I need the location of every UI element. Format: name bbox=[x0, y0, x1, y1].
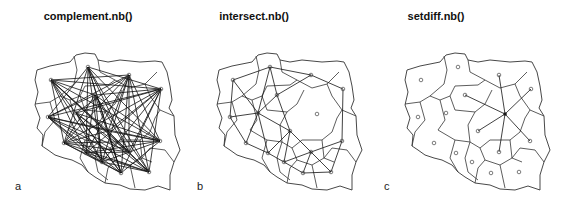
neighbour-link bbox=[478, 114, 505, 131]
neighbour-link bbox=[465, 95, 505, 114]
neighbour-link bbox=[246, 113, 258, 143]
neighbour-link bbox=[230, 80, 233, 117]
maps-canvas bbox=[0, 0, 574, 211]
region-border bbox=[322, 140, 356, 162]
neighbour-link bbox=[342, 89, 343, 141]
neighbour-link bbox=[331, 141, 342, 172]
neighbour-link bbox=[258, 113, 268, 153]
region-node bbox=[419, 78, 423, 82]
panel-a-title: complement.nb() bbox=[44, 10, 133, 22]
map-panel-b bbox=[217, 53, 362, 190]
map-panel-a bbox=[35, 53, 180, 190]
region-border bbox=[500, 165, 505, 188]
region-border bbox=[217, 56, 259, 104]
neighbour-link bbox=[230, 117, 246, 143]
panel-b-title: intersect.nb() bbox=[219, 10, 289, 22]
region-border bbox=[480, 148, 522, 165]
region-node bbox=[444, 111, 448, 115]
region-node bbox=[456, 65, 460, 69]
region-node bbox=[503, 112, 506, 115]
neighbour-link bbox=[311, 152, 331, 172]
neighbour-link bbox=[129, 75, 160, 141]
region-border bbox=[405, 56, 447, 104]
neighbour-link bbox=[268, 153, 284, 162]
region-border bbox=[475, 160, 485, 183]
region-node bbox=[432, 141, 436, 145]
region-border bbox=[412, 102, 425, 146]
region-border bbox=[430, 96, 450, 100]
region-node bbox=[416, 115, 420, 119]
map-panel-c bbox=[405, 53, 550, 190]
neighbour-link bbox=[311, 141, 342, 152]
region-node bbox=[489, 171, 493, 175]
region-border bbox=[312, 165, 317, 188]
neighbour-link bbox=[230, 113, 258, 117]
region-node bbox=[517, 170, 521, 174]
region-border bbox=[510, 140, 544, 162]
neighbour-link bbox=[258, 67, 270, 113]
neighbour-link bbox=[499, 114, 505, 152]
panel-c-label: c bbox=[384, 180, 390, 192]
region-border bbox=[450, 80, 492, 112]
neighbour-link bbox=[499, 75, 505, 114]
region-node bbox=[315, 112, 319, 116]
region-border bbox=[277, 142, 290, 180]
region-border bbox=[287, 160, 297, 183]
region-node bbox=[454, 151, 458, 155]
neighbour-link bbox=[233, 67, 270, 80]
neighbour-link bbox=[233, 80, 258, 113]
region-border bbox=[242, 96, 262, 100]
panel-a-label: a bbox=[15, 180, 21, 192]
neighbour-link bbox=[270, 67, 277, 95]
neighbour-link bbox=[505, 89, 531, 114]
neighbour-link bbox=[277, 95, 290, 131]
region-border bbox=[42, 102, 55, 146]
region-node bbox=[470, 160, 474, 164]
neighbour-link bbox=[270, 67, 311, 75]
region-border bbox=[262, 80, 304, 112]
neighbour-link bbox=[303, 172, 331, 173]
panel-c-title: setdiff.nb() bbox=[408, 10, 465, 22]
panel-b-label: b bbox=[197, 180, 203, 192]
region-border bbox=[465, 142, 478, 180]
neighbour-link bbox=[505, 114, 530, 141]
neighbour-link bbox=[290, 131, 311, 152]
